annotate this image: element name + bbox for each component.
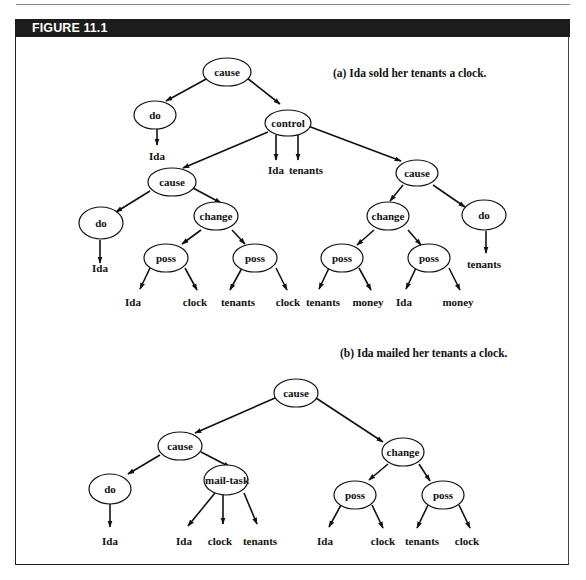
svg-text:cause: cause: [167, 440, 193, 452]
svg-text:mail-task: mail-task: [205, 474, 250, 486]
leaf-b-mail-ida: Ida: [176, 535, 192, 547]
leaf-a-poss-rr-ida: Ida: [396, 296, 412, 308]
node-b-do: do: [89, 474, 131, 504]
svg-text:do: do: [149, 109, 161, 121]
leaf-a-do-left-ida: Ida: [92, 262, 108, 274]
svg-text:do: do: [95, 217, 107, 229]
panel-b: (b) Ida mailed her tenants a clock. caus…: [89, 347, 508, 547]
tree-diagram: (a) Ida sold her tenants a clock.: [0, 0, 586, 580]
svg-text:do: do: [104, 483, 116, 495]
caption-a: (a) Ida sold her tenants a clock.: [333, 67, 487, 80]
leaf-b-do-ida: Ida: [102, 535, 118, 547]
node-a-cause-right: cause: [396, 160, 438, 186]
svg-text:poss: poss: [419, 252, 440, 264]
node-b-cause: cause: [158, 432, 202, 460]
leaf-a-poss-rr-money: money: [442, 296, 474, 308]
node-a-poss-rl: poss: [321, 244, 363, 272]
node-b-poss-r: poss: [422, 481, 464, 509]
svg-text:change: change: [387, 446, 420, 458]
leaf-b-mail-tenants: tenants: [243, 535, 278, 547]
node-a-control: control: [265, 110, 311, 136]
leaf-b-poss-r-tenants: tenants: [405, 535, 440, 547]
node-a-change-right: change: [367, 202, 409, 230]
node-b-mail-task: mail-task: [204, 465, 250, 495]
node-a-change-left: change: [194, 202, 238, 230]
panel-a: (a) Ida sold her tenants a clock.: [79, 58, 506, 308]
svg-text:cause: cause: [159, 176, 185, 188]
svg-text:poss: poss: [332, 252, 353, 264]
leaf-a-do-ida: Ida: [149, 150, 165, 162]
leaf-a-poss-lr-clock: clock: [276, 296, 301, 308]
leaf-b-poss-r-clock: clock: [455, 535, 480, 547]
leaf-a-control-ida: Ida: [268, 164, 284, 176]
leaf-a-poss-ll-clock: clock: [183, 296, 208, 308]
svg-text:poss: poss: [156, 252, 177, 264]
leaf-a-do-right-tenants: tenants: [467, 258, 502, 270]
leaf-a-poss-lr-tenants: tenants: [221, 296, 256, 308]
node-a-do-left: do: [79, 207, 123, 239]
leaf-b-mail-clock: clock: [208, 535, 233, 547]
leaf-b-poss-l-clock: clock: [371, 535, 396, 547]
leaf-b-poss-l-ida: Ida: [317, 535, 333, 547]
node-a-poss-ll: poss: [144, 244, 188, 272]
svg-text:poss: poss: [345, 489, 366, 501]
node-b-poss-l: poss: [334, 481, 376, 509]
node-a-poss-rr: poss: [408, 244, 450, 272]
leaf-a-poss-rl-money: money: [352, 296, 384, 308]
svg-text:control: control: [271, 117, 304, 129]
node-b-root-cause: cause: [274, 379, 318, 407]
svg-text:do: do: [478, 209, 490, 221]
svg-text:cause: cause: [283, 387, 309, 399]
leaf-a-poss-rl-tenants: tenants: [306, 296, 341, 308]
svg-text:change: change: [200, 210, 233, 222]
node-b-change: change: [382, 438, 424, 466]
svg-text:change: change: [372, 210, 405, 222]
svg-text:cause: cause: [404, 167, 430, 179]
node-a-cause-left: cause: [148, 168, 196, 196]
node-a-do: do: [134, 101, 176, 129]
svg-text:poss: poss: [433, 489, 454, 501]
svg-text:poss: poss: [245, 252, 266, 264]
node-a-poss-lr: poss: [233, 244, 277, 272]
leaf-a-poss-ll-ida: Ida: [125, 296, 141, 308]
leaf-a-control-tenants: tenants: [289, 164, 324, 176]
caption-b: (b) Ida mailed her tenants a clock.: [340, 347, 508, 360]
node-a-do-right: do: [462, 200, 506, 230]
svg-text:cause: cause: [214, 66, 240, 78]
node-a-root-cause: cause: [203, 58, 251, 86]
